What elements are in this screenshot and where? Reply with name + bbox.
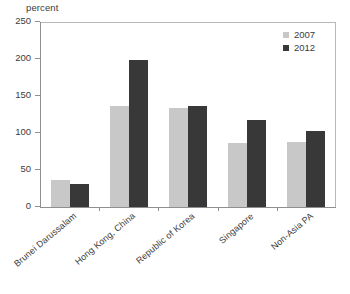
legend-swatch-2012: [283, 45, 289, 51]
legend: 20072012: [283, 29, 315, 55]
bar-2012-0: [70, 184, 89, 207]
bar-2012-1: [129, 60, 148, 207]
bar-2012-2: [188, 106, 207, 207]
legend-label-2007: 2007: [294, 29, 315, 40]
x-axis-label-1: Hong Kong, China: [73, 211, 137, 267]
legend-item-2012: 2012: [283, 42, 315, 53]
x-axis-separator-tick: [218, 207, 219, 211]
x-axis-label-2: Republic of Korea: [134, 211, 197, 266]
y-axis-tick-label: 100: [0, 126, 31, 137]
x-axis-label-3: Singapore: [217, 211, 256, 246]
bar-chart: percent 050100150200250 Brunei Darussala…: [0, 0, 350, 294]
legend-item-2007: 2007: [283, 29, 315, 40]
x-axis-label-4: Non-Asia PA: [269, 211, 315, 252]
y-axis-tick-label: 250: [0, 15, 31, 26]
bar-2007-0: [51, 180, 70, 207]
bar-2012-4: [306, 131, 325, 207]
x-axis-separator-tick: [277, 207, 278, 211]
legend-swatch-2007: [283, 32, 289, 38]
bar-2007-2: [169, 108, 188, 207]
y-axis-tick-label: 150: [0, 89, 31, 100]
x-axis-separator-tick: [99, 207, 100, 211]
x-axis-label-0: Brunei Darussalam: [12, 211, 78, 269]
legend-label-2012: 2012: [294, 42, 315, 53]
bar-2007-1: [110, 106, 129, 207]
y-axis-tick-label: 0: [0, 200, 31, 211]
x-axis-line: [40, 207, 336, 208]
y-axis-unit-label: percent: [26, 2, 58, 13]
bar-2012-3: [247, 120, 266, 207]
bar-2007-4: [287, 142, 306, 207]
y-axis-tick-label: 200: [0, 52, 31, 63]
y-axis-tick-label: 50: [0, 163, 31, 174]
x-axis-separator-tick: [158, 207, 159, 211]
bar-2007-3: [228, 143, 247, 207]
